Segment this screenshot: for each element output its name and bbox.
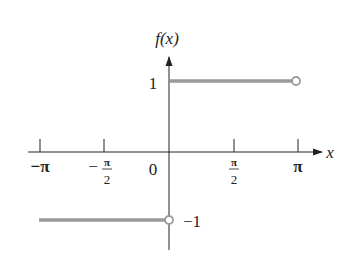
step-function-chart: f(x) x 1 −1 −π − π 2 0 π 2 π <box>0 0 357 261</box>
neg-sign: − <box>88 157 98 176</box>
pi-numerator: π <box>231 156 237 168</box>
y-tick-label-neg-1: −1 <box>183 212 201 231</box>
x-tick-label-pi: π <box>293 157 303 176</box>
x-tick-label-neg-pi: −π <box>30 157 50 176</box>
open-endpoint-zero <box>165 216 173 224</box>
x-tick-label-half-pi: π 2 <box>229 156 239 187</box>
pi-numerator: π <box>104 156 110 168</box>
x-tick-label-neg-half-pi: − π 2 <box>88 156 112 187</box>
denominator-2: 2 <box>104 172 111 187</box>
x-axis-label: x <box>325 143 334 162</box>
open-endpoint-pi <box>292 77 300 85</box>
x-tick-label-zero: 0 <box>149 160 158 179</box>
y-tick-label-1: 1 <box>149 74 158 93</box>
y-axis-label: f(x) <box>155 29 179 48</box>
series-upper <box>170 77 300 85</box>
series-lower <box>39 216 173 224</box>
denominator-2: 2 <box>231 172 238 187</box>
